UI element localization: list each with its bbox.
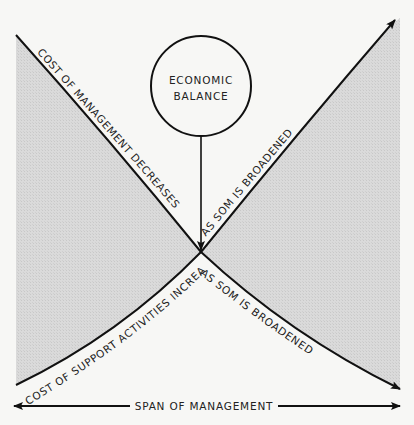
axis-label: SPAN OF MANAGEMENT xyxy=(135,400,274,412)
economic-balance-line2: BALANCE xyxy=(173,90,228,102)
economic-balance-line1: ECONOMIC xyxy=(169,74,233,86)
span-of-management-diagram: COST OF MANAGEMENT DECREASES AS SOM IS B… xyxy=(0,0,414,425)
economic-balance-node: ECONOMIC BALANCE xyxy=(151,36,251,136)
